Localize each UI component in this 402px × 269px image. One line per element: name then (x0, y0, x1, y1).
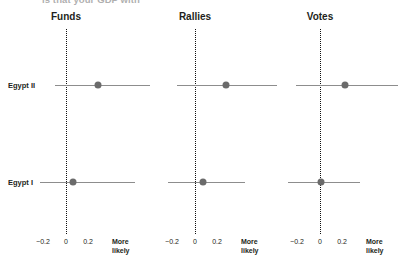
clipped-headline: is that your GDP with (42, 0, 140, 5)
point-votes-egypt-i (318, 179, 325, 186)
axis-note-funds: More likely (112, 238, 130, 255)
axis-note-line1: More (241, 238, 259, 247)
ci-line-funds-egypt-ii (55, 85, 150, 86)
panel-title-rallies: Rallies (179, 11, 211, 22)
zero-reference-line-rallies (195, 29, 196, 234)
axis-note-rallies: More likely (241, 238, 259, 255)
xtick-votes-02: 0.2 (337, 238, 347, 245)
xtick-funds-zero: 0 (64, 238, 68, 245)
point-funds-egypt-i (70, 179, 77, 186)
axis-note-line2: likely (241, 247, 259, 256)
panel-title-funds: Funds (51, 11, 81, 22)
xtick-funds-neg02: −0.2 (36, 238, 50, 245)
point-votes-egypt-ii (342, 82, 349, 89)
zero-reference-line-funds (66, 29, 67, 234)
axis-note-line1: More (366, 238, 384, 247)
xtick-votes-zero: 0 (318, 238, 322, 245)
point-rallies-egypt-i (200, 179, 207, 186)
axis-note-votes: More likely (366, 238, 384, 255)
point-rallies-egypt-ii (223, 82, 230, 89)
axis-note-line1: More (112, 238, 130, 247)
zero-reference-line-votes (320, 29, 321, 234)
axis-note-line2: likely (112, 247, 130, 256)
row-label-egypt-i: Egypt I (8, 178, 33, 187)
ci-line-funds-egypt-i (40, 182, 135, 183)
point-funds-egypt-ii (95, 82, 102, 89)
xtick-funds-02: 0.2 (83, 238, 93, 245)
axis-note-line2: likely (366, 247, 384, 256)
xtick-rallies-zero: 0 (193, 238, 197, 245)
xtick-rallies-neg02: −0.2 (165, 238, 179, 245)
row-label-egypt-ii: Egypt II (8, 81, 35, 90)
xtick-votes-neg02: −0.2 (290, 238, 304, 245)
panel-title-votes: Votes (307, 11, 334, 22)
xtick-rallies-02: 0.2 (212, 238, 222, 245)
ci-line-rallies-egypt-i (168, 182, 245, 183)
